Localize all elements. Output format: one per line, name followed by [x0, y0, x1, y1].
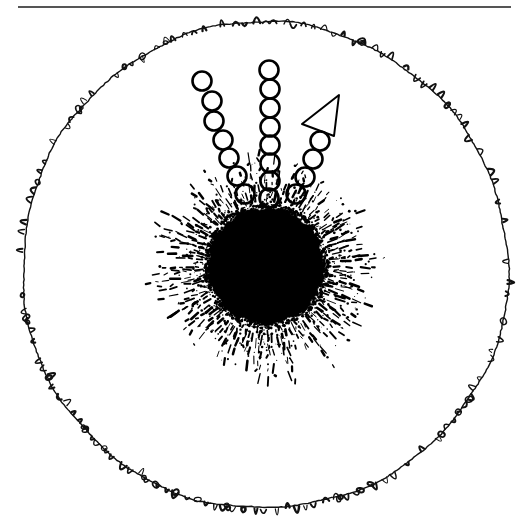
corona-stipple [199, 250, 201, 252]
corona-stipple [331, 246, 333, 248]
corona-stipple [196, 234, 197, 235]
corona-stipple [354, 210, 357, 213]
corona-stipple [259, 356, 262, 359]
disc-fringe-speck [320, 242, 321, 243]
corona-stipple [342, 296, 344, 298]
corona-stipple [322, 236, 324, 238]
corona-stipple [201, 252, 203, 254]
disc-fringe-speck [225, 224, 227, 226]
corona-stipple [339, 249, 342, 252]
corona-stipple [252, 164, 253, 165]
disc-fringe-speck [219, 305, 221, 307]
disc-fringe-speck [277, 208, 280, 211]
corona-ray [287, 357, 288, 363]
disc-fringe-speck [295, 318, 298, 321]
corona-stipple [199, 299, 201, 301]
corona-dot [282, 331, 283, 332]
corona-stipple [317, 319, 318, 320]
corona-stipple [337, 269, 339, 271]
disc-fringe-speck [317, 239, 319, 241]
disc-fringe-speck [286, 207, 287, 208]
corona-stipple [213, 309, 215, 311]
corona-stipple [231, 203, 232, 204]
corona-stipple [230, 196, 232, 198]
corona-ray [243, 345, 244, 347]
corona-dot [221, 350, 222, 351]
corona-stipple [340, 305, 342, 307]
disc-fringe-speck [310, 303, 312, 305]
corona-ray [160, 289, 166, 290]
disc-fringe-speck [218, 298, 219, 299]
corona-stipple [269, 347, 271, 349]
corona-ray [183, 269, 191, 270]
corona-stipple [216, 306, 217, 307]
corona-stipple [279, 335, 280, 336]
corona-stipple [195, 224, 198, 227]
disc-fringe-speck [215, 233, 217, 235]
corona-stipple [194, 204, 196, 206]
corona-ray [383, 258, 384, 259]
corona-stipple [276, 180, 277, 181]
corona-stipple [329, 239, 330, 240]
corona-stipple [368, 260, 370, 262]
corona-stipple [227, 211, 230, 214]
corona-stipple [312, 200, 314, 202]
corona-stipple [334, 263, 335, 264]
disc-fringe-speck [311, 228, 314, 231]
corona-stipple [335, 225, 337, 227]
corona-ray [347, 272, 353, 273]
disc-fringe-speck [260, 327, 262, 329]
corona-stipple [301, 209, 302, 210]
disc-fringe-speck [321, 238, 323, 240]
corona-stipple [299, 196, 302, 199]
disc-fringe-speck [287, 210, 288, 211]
corona-ray [193, 245, 196, 247]
corona-stipple [336, 282, 339, 285]
corona-ray [289, 341, 290, 348]
corona-stipple [158, 265, 161, 268]
disc-fringe-speck [222, 221, 224, 223]
disc-fringe-speck [231, 316, 234, 319]
corona-dot [247, 355, 249, 357]
corona-ray [194, 208, 196, 209]
disc-fringe-speck [269, 324, 270, 325]
corona-stipple [333, 240, 334, 241]
disc-fringe-speck [207, 244, 210, 247]
disc-fringe-speck [293, 212, 296, 215]
corona-stipple [231, 323, 233, 325]
disc-fringe-speck [319, 244, 320, 245]
disc-fringe-speck [244, 324, 246, 326]
corona-stipple [216, 194, 218, 196]
corona-stipple [354, 296, 355, 297]
corona-dot [326, 356, 328, 358]
disc-fringe-speck [265, 203, 267, 205]
corona-stipple [239, 325, 242, 328]
corona-stipple [328, 281, 330, 283]
corona-stipple [347, 223, 349, 225]
disc-fringe-speck [240, 322, 241, 323]
corona-stipple [227, 320, 229, 322]
corona-dot [266, 179, 268, 181]
corona-dot [269, 200, 272, 203]
corona-stipple [261, 346, 264, 349]
corona-stipple [224, 322, 227, 325]
corona-ray [273, 364, 274, 373]
disc-fringe-speck [214, 293, 215, 294]
disc-fringe-speck [229, 316, 230, 317]
disc-fringe-speck [322, 262, 325, 265]
corona-ray [321, 182, 323, 183]
disc-fringe-speck [289, 210, 290, 211]
corona-stipple [345, 276, 346, 277]
disc-fringe-speck [203, 270, 205, 272]
corona-ray [275, 375, 276, 376]
corona-dot [254, 352, 255, 353]
corona-stipple [226, 185, 228, 187]
corona-ray [219, 209, 220, 212]
disc-fringe-speck [221, 302, 223, 304]
corona-ray [201, 314, 203, 315]
corona-ray [274, 156, 275, 164]
corona-stipple [333, 231, 336, 234]
corona-stipple [335, 257, 337, 259]
corona-ray [340, 271, 346, 272]
disc-fringe-speck [246, 320, 248, 322]
